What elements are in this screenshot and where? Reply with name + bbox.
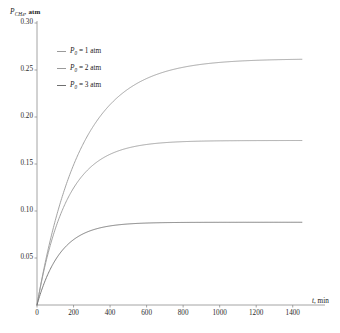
curve-series-3	[37, 222, 302, 305]
data-curves-group	[37, 59, 302, 305]
x-tick-label: 200	[59, 309, 89, 317]
y-tick-label: 0.05	[6, 253, 33, 261]
chart-plot-area	[0, 0, 340, 333]
curve-series-1	[37, 59, 302, 305]
legend-item-label: P0 = 2 atm	[70, 63, 101, 73]
x-tick-label: 1200	[241, 309, 271, 317]
x-tick-label: 600	[132, 309, 162, 317]
y-tick-label: 0.30	[6, 18, 33, 26]
x-tick-label: 0	[22, 309, 52, 317]
y-tick-label: 0.20	[6, 112, 33, 120]
x-tick-label: 800	[168, 309, 198, 317]
x-tick-label: 1400	[278, 309, 308, 317]
legend-item-1: P0 = 1 atm	[57, 46, 101, 56]
x-tick-label: 400	[95, 309, 125, 317]
y-axis-label: PCH4, atm	[10, 7, 40, 17]
legend-item-2: P0 = 2 atm	[57, 63, 101, 73]
chart-container: PCH4, atm t, min 0.050.100.150.200.250.3…	[0, 0, 340, 333]
legend-item-label: P0 = 1 atm	[70, 46, 101, 56]
legend-line-icon	[57, 51, 66, 52]
legend-line-icon	[57, 68, 66, 69]
chart-legend: P0 = 1 atmP0 = 2 atmP0 = 3 atm	[57, 46, 101, 90]
y-tick-label: 0.15	[6, 159, 33, 167]
legend-item-label: P0 = 3 atm	[70, 80, 101, 90]
y-tick-label: 0.25	[6, 65, 33, 73]
legend-item-3: P0 = 3 atm	[57, 80, 101, 90]
x-tick-label: 1000	[205, 309, 235, 317]
legend-line-icon	[57, 85, 66, 86]
y-tick-label: 0.10	[6, 206, 33, 214]
x-axis-label: t, min	[312, 297, 329, 305]
